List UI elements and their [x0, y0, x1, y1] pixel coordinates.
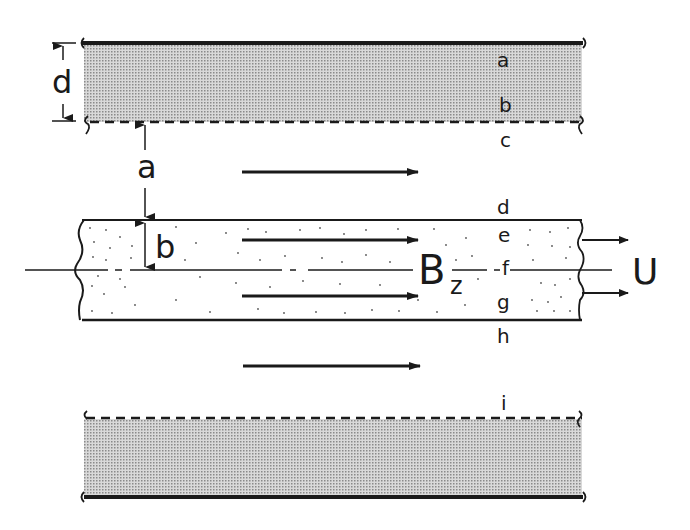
slab-geometry-diagram — [0, 0, 690, 530]
flow-arrows — [242, 172, 420, 366]
velocity-label-u: U — [632, 254, 658, 290]
position-label-e: e — [498, 225, 510, 245]
field-label-b: B — [417, 250, 446, 290]
position-label-i: i — [501, 393, 507, 413]
position-label-a: a — [497, 50, 509, 70]
velocity-arrows — [582, 240, 628, 293]
position-label-b: b — [499, 95, 512, 115]
top-wall — [82, 38, 586, 134]
field-label-subscript: z — [450, 274, 463, 298]
bottom-wall — [82, 411, 586, 502]
position-label-f: f — [502, 258, 509, 278]
position-label-d: d — [497, 197, 510, 217]
dimension-label-d: d — [52, 66, 72, 98]
dimension-label-b: b — [155, 231, 175, 263]
position-label-c: c — [500, 130, 511, 150]
position-label-g: g — [497, 292, 510, 312]
dimension-label-a: a — [137, 151, 157, 183]
position-label-h: h — [497, 326, 510, 346]
